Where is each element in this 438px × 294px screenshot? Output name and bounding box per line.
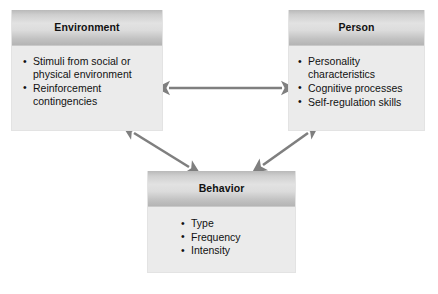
node-title-person: Person — [338, 22, 374, 33]
bullet-list-environment: Stimuli from social or physical environm… — [23, 55, 153, 108]
list-item: Cognitive processes — [298, 82, 415, 95]
node-box-environment: Environment Stimuli from social or physi… — [11, 10, 163, 131]
connector-environment-behavior — [134, 133, 189, 167]
node-body-person: Personality characteristics Cognitive pr… — [289, 46, 424, 115]
bullet-list-behavior: Type Frequency Intensity — [181, 217, 253, 258]
list-item: Self-regulation skills — [298, 96, 415, 109]
node-header-environment: Environment — [12, 10, 162, 46]
list-item: Personality characteristics — [298, 55, 415, 81]
node-title-behavior: Behavior — [199, 183, 245, 194]
list-item: Type — [181, 217, 253, 230]
list-item: Frequency — [181, 231, 253, 244]
node-box-person: Person Personality characteristics Cogni… — [288, 10, 425, 131]
node-body-behavior: Type Frequency Intensity — [148, 207, 295, 264]
node-box-behavior: Behavior Type Frequency Intensity — [147, 171, 296, 273]
list-item: Reinforcement contingencies — [23, 82, 153, 108]
node-header-behavior: Behavior — [148, 171, 295, 207]
bullet-list-person: Personality characteristics Cognitive pr… — [298, 55, 415, 109]
list-item: Stimuli from social or physical environm… — [23, 55, 153, 81]
node-header-person: Person — [289, 10, 424, 46]
list-item: Intensity — [181, 244, 253, 257]
connector-person-behavior — [263, 133, 308, 165]
node-title-environment: Environment — [54, 22, 119, 33]
node-body-environment: Stimuli from social or physical environm… — [12, 46, 162, 115]
diagram-canvas: Environment Stimuli from social or physi… — [0, 0, 438, 294]
